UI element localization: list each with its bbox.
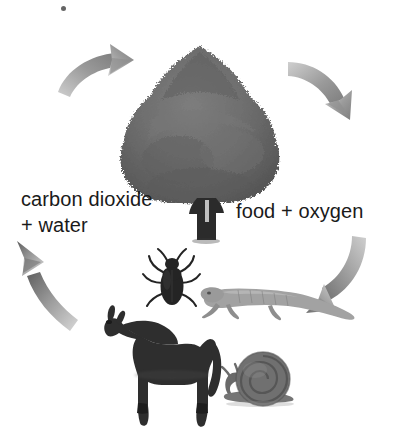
snail-figure xyxy=(222,352,294,407)
tree-trunk xyxy=(197,198,216,240)
horse-figure xyxy=(104,305,221,427)
diagram-canvas: carbon dioxide + water food + oxygen xyxy=(0,0,399,438)
beetle-figure xyxy=(143,249,200,306)
lizard-figure xyxy=(201,287,355,320)
dust-speck xyxy=(61,6,66,11)
label-food-oxygen: food + oxygen xyxy=(236,198,364,224)
arrow-top-left xyxy=(58,44,134,97)
arrow-bottom-left xyxy=(17,241,78,331)
arrow-top-right xyxy=(288,62,352,120)
label-carbon-dioxide-water: carbon dioxide + water xyxy=(21,186,153,238)
arrow-bottom-right xyxy=(306,236,366,313)
